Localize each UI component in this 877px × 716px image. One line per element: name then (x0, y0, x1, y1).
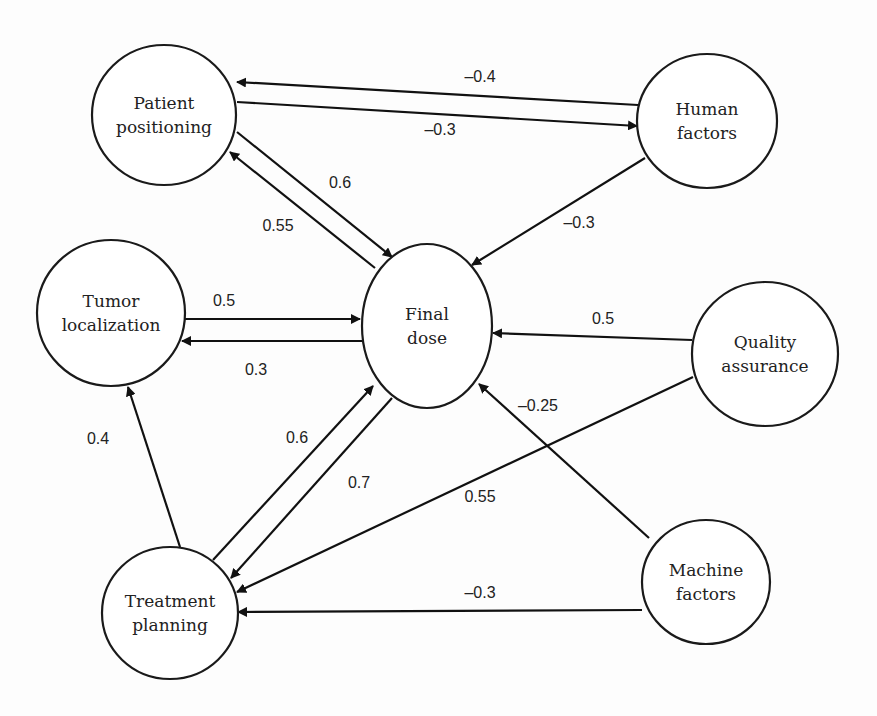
node-tumor-localization: Tumorlocalization (37, 240, 185, 386)
node-label-line: Patient (134, 93, 195, 113)
causal-network-diagram: –0.4–0.30.60.55–0.30.50.30.5–0.250.40.60… (0, 0, 877, 716)
edge-human-factors-to-patient-positioning: –0.4 (237, 68, 638, 105)
edge-final-dose-to-treatment-planning: 0.7 (231, 398, 392, 578)
node-ellipse (692, 282, 838, 426)
edge-weight-label: –0.4 (464, 68, 495, 85)
node-label-line: Quality (734, 332, 797, 352)
node-ellipse (637, 54, 777, 188)
edge-arrow (238, 610, 642, 612)
edge-final-dose-to-patient-positioning: 0.55 (230, 152, 375, 268)
edge-arrow (493, 333, 692, 340)
node-label-line: assurance (721, 356, 808, 376)
edge-arrow (472, 158, 645, 265)
edge-quality-assurance-to-final-dose: 0.5 (493, 310, 692, 340)
edge-treatment-planning-to-tumor-localization: 0.4 (87, 387, 180, 547)
edge-weight-label: –0.25 (518, 397, 558, 414)
node-machine-factors: Machinefactors (642, 520, 770, 644)
nodes-layer: PatientpositioningHumanfactorsTumorlocal… (37, 45, 838, 679)
edge-weight-label: 0.3 (245, 361, 267, 378)
node-ellipse (92, 45, 236, 185)
edge-weight-label: 0.5 (592, 310, 614, 327)
edge-weight-label: –0.3 (563, 214, 594, 231)
edge-weight-label: –0.3 (424, 121, 455, 138)
node-ellipse (102, 547, 238, 679)
edge-arrow (237, 377, 693, 592)
node-label-line: Final (405, 304, 449, 324)
edge-patient-positioning-to-final-dose: 0.6 (237, 132, 392, 257)
node-label-line: localization (62, 315, 161, 335)
edge-tumor-localization-to-final-dose: 0.5 (185, 292, 360, 319)
edge-arrow (128, 387, 180, 547)
edge-human-factors-to-final-dose: –0.3 (472, 158, 645, 265)
node-label-line: factors (676, 584, 736, 604)
edge-weight-label: 0.55 (464, 488, 495, 505)
node-label-line: Tumor (83, 291, 141, 311)
edge-machine-factors-to-treatment-planning: –0.3 (238, 584, 642, 612)
edge-weight-label: 0.6 (286, 429, 308, 446)
edge-weight-label: 0.7 (348, 474, 370, 491)
node-label-line: Treatment (125, 591, 216, 611)
edge-machine-factors-to-final-dose: –0.25 (479, 384, 649, 538)
node-label-line: planning (132, 615, 208, 635)
node-label-line: positioning (116, 117, 212, 137)
node-final-dose: Finaldose (362, 244, 492, 408)
node-ellipse (362, 244, 492, 408)
edge-weight-label: 0.6 (329, 174, 351, 191)
node-label-line: Human (676, 99, 739, 119)
edge-arrow (237, 132, 392, 257)
edge-treatment-planning-to-final-dose: 0.6 (213, 386, 373, 560)
edge-arrow (237, 82, 638, 105)
node-label-line: Machine (669, 560, 743, 580)
node-label-line: factors (677, 123, 737, 143)
edge-weight-label: –0.3 (464, 584, 495, 601)
edge-weight-label: 0.4 (87, 430, 109, 447)
node-patient-positioning: Patientpositioning (92, 45, 236, 185)
edge-final-dose-to-tumor-localization: 0.3 (182, 341, 362, 378)
node-ellipse (642, 520, 770, 644)
node-human-factors: Humanfactors (637, 54, 777, 188)
node-label-line: dose (407, 328, 447, 348)
edge-arrow (230, 152, 375, 268)
edge-weight-label: 0.5 (213, 292, 235, 309)
node-treatment-planning: Treatmentplanning (102, 547, 238, 679)
edge-arrow (479, 384, 649, 538)
edge-patient-positioning-to-human-factors: –0.3 (237, 102, 637, 138)
node-quality-assurance: Qualityassurance (692, 282, 838, 426)
edge-quality-assurance-to-treatment-planning: 0.55 (237, 377, 693, 592)
edge-arrow (213, 386, 373, 560)
node-ellipse (37, 240, 185, 386)
edge-weight-label: 0.55 (262, 217, 293, 234)
